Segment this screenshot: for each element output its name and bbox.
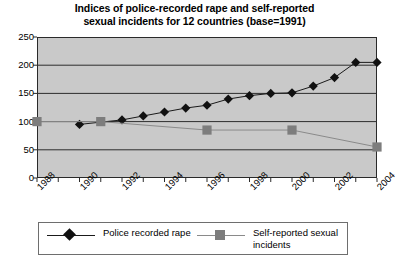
legend-swatch-diamond <box>47 230 95 241</box>
x-axis-tick-label: 2004 <box>375 170 397 192</box>
chart-legend: Police recorded rape Self-reported sexua… <box>38 222 348 255</box>
legend-label-line-2: incidents <box>253 239 291 250</box>
x-axis-tick-label: 2002 <box>333 170 355 192</box>
x-axis-tick-label: 1992 <box>120 170 142 192</box>
square-marker-icon <box>215 230 225 240</box>
legend-entry-police-recorded-rape: Police recorded rape <box>47 227 197 252</box>
x-axis-tick-label: 1998 <box>248 170 270 192</box>
legend-label-police-recorded-rape: Police recorded rape <box>103 227 195 239</box>
legend-label-line-2: rape <box>172 227 191 238</box>
x-axis-tick-label: 1990 <box>78 170 100 192</box>
legend-swatch-square <box>197 230 245 241</box>
diamond-marker-icon <box>63 228 76 241</box>
legend-label-self-reported-sexual-incidents: Self-reported sexual incidents <box>253 227 345 251</box>
x-axis-tick-label: 1988 <box>35 170 57 192</box>
x-axis-tick-label: 2000 <box>290 170 312 192</box>
legend-label-line-1: Self-reported sexual <box>253 227 338 238</box>
x-axis-tick-label: 1996 <box>205 170 227 192</box>
legend-label-line-1: Police recorded <box>103 227 169 238</box>
x-axis-tick-label: 1994 <box>163 170 185 192</box>
legend-entry-self-reported-sexual-incidents: Self-reported sexual incidents <box>197 227 345 252</box>
